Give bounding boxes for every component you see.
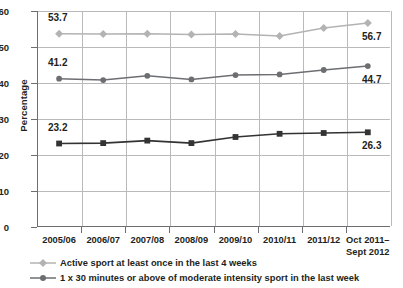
datalabel-bot-last: 26.3 bbox=[362, 140, 381, 151]
datapoint-bot-3 bbox=[144, 138, 150, 144]
datapoint-top-1 bbox=[55, 30, 63, 38]
datapoint-top-2 bbox=[99, 30, 107, 38]
legend-marker-diamond-icon bbox=[30, 257, 56, 269]
datapoint-mid-6 bbox=[277, 72, 283, 78]
datalabel-top-first: 53.7 bbox=[48, 12, 67, 23]
chart-legend: Active sport at least once in the last 4… bbox=[0, 255, 403, 285]
datalabel-top-last: 56.7 bbox=[362, 31, 381, 42]
legend-marker-circle-icon bbox=[30, 272, 56, 284]
x-tick-mark-5 bbox=[258, 227, 259, 233]
datapoint-bot-1 bbox=[56, 141, 62, 147]
datapoint-bot-2 bbox=[100, 140, 106, 146]
datapoint-bot-5 bbox=[233, 134, 239, 140]
legend-item-1x30[interactable]: 1 x 30 minutes or above of moderate inte… bbox=[0, 270, 403, 285]
datapoint-top-6 bbox=[276, 32, 284, 40]
series-1x30-moderate-intensity bbox=[56, 63, 371, 83]
datapoint-mid-8 bbox=[365, 63, 371, 69]
datalabel-mid-last: 44.7 bbox=[362, 74, 381, 85]
datapoint-top-4 bbox=[187, 30, 195, 38]
legend-label-1x30: 1 x 30 minutes or above of moderate inte… bbox=[60, 273, 359, 283]
x-tick-mark-3 bbox=[169, 227, 170, 233]
x-tick-mark-7 bbox=[346, 227, 347, 233]
x-tick-mark-2 bbox=[125, 227, 126, 233]
series-active-sport-4-weeks bbox=[55, 19, 372, 40]
datapoint-bot-4 bbox=[189, 140, 195, 146]
datapoint-mid-7 bbox=[321, 67, 327, 73]
line-chart: Percentage 0 10 20 30 40 50 60 bbox=[0, 0, 403, 288]
datalabel-mid-first: 41.2 bbox=[48, 57, 67, 68]
x-tick-mark-4 bbox=[214, 227, 215, 233]
datapoint-bot-8 bbox=[365, 129, 371, 135]
datapoint-top-3 bbox=[143, 30, 151, 38]
legend-label-active-sport: Active sport at least once in the last 4… bbox=[60, 258, 257, 268]
datapoint-mid-4 bbox=[189, 77, 195, 83]
datapoint-bot-6 bbox=[277, 131, 283, 137]
x-tick-mark-6 bbox=[302, 227, 303, 233]
series-3x30-moderate-intensity bbox=[56, 129, 370, 146]
datapoint-bot-7 bbox=[321, 130, 327, 136]
datapoint-top-5 bbox=[232, 30, 240, 38]
datapoint-top-7 bbox=[320, 24, 328, 32]
datapoint-top-8 bbox=[364, 19, 372, 27]
datalabel-bot-first: 23.2 bbox=[48, 122, 67, 133]
datapoint-mid-1 bbox=[56, 76, 62, 82]
legend-item-active-sport[interactable]: Active sport at least once in the last 4… bbox=[0, 255, 403, 270]
x-tick-mark-1 bbox=[81, 227, 82, 233]
datapoint-mid-5 bbox=[233, 72, 239, 78]
datapoint-mid-2 bbox=[100, 77, 106, 83]
datapoint-mid-3 bbox=[144, 73, 150, 79]
